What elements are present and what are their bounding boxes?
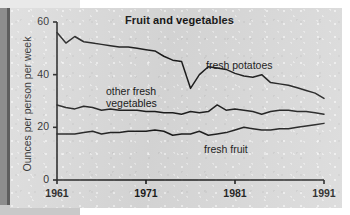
series-annotation-fresh-potatoes: fresh potatoes: [206, 60, 273, 72]
y-tick-label-40: 40: [23, 68, 49, 80]
chart-series: [57, 33, 324, 136]
y-tick-label-20: 20: [23, 120, 49, 132]
series-annotation-other-fresh-vegetables-line1: other fresh: [106, 86, 156, 98]
x-tick-label-1991: 1991: [302, 187, 342, 199]
x-tick-label-1971: 1971: [124, 187, 168, 199]
y-axis-label: Ounces per person per week: [21, 24, 33, 184]
page-edge-top: [0, 0, 80, 8]
chart-axes: [53, 22, 324, 184]
series-line-fresh-potatoes: [57, 33, 324, 99]
y-tick-label-0: 0: [23, 173, 49, 185]
series-line-other-fresh-vegetables: [57, 105, 324, 114]
series-line-fresh-fruit: [57, 123, 324, 135]
series-annotation-fresh-fruit: fresh fruit: [204, 144, 248, 156]
chart-figure: Fruit and vegetables Ounces per person p…: [10, 8, 342, 208]
screenshot-root: Fruit and vegetables Ounces per person p…: [0, 0, 350, 215]
chart-title: Fruit and vegetables: [125, 14, 234, 26]
x-tick-label-1961: 1961: [35, 187, 79, 199]
x-tick-label-1981: 1981: [213, 187, 257, 199]
y-tick-label-60: 60: [23, 15, 49, 27]
line-chart-canvas: [10, 8, 342, 208]
series-annotation-other-fresh-vegetables-line2: vegetables: [106, 98, 157, 110]
